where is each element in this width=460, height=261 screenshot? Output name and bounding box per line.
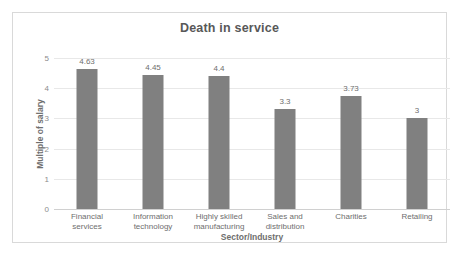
- plot-area: 0123454.634.454.43.33.733: [54, 58, 450, 209]
- x-category-label: Highly skilled manufacturing: [186, 212, 252, 232]
- gridline: 0: [54, 209, 450, 210]
- y-axis-title: Multiple of salary: [33, 58, 47, 209]
- x-category-label: Retailing: [384, 212, 450, 222]
- bar[interactable]: [407, 118, 428, 209]
- x-category-label: Information technology: [120, 212, 186, 232]
- y-tick-label: 1: [45, 174, 49, 183]
- bar-value-label: 4.45: [145, 63, 161, 72]
- y-tick-label: 2: [45, 144, 49, 153]
- bar[interactable]: [209, 76, 230, 209]
- y-tick-label: 0: [45, 205, 49, 214]
- x-category-label: Sales and distribution: [252, 212, 318, 232]
- y-tick-label: 4: [45, 84, 49, 93]
- x-category-label: Charities: [318, 212, 384, 222]
- bar-slot: 4.45: [120, 58, 186, 209]
- bar-slot: 4.63: [54, 58, 120, 209]
- bar-value-label: 3: [415, 106, 419, 115]
- bar-slot: 4.4: [186, 58, 252, 209]
- y-tick-label: 5: [45, 54, 49, 63]
- bar[interactable]: [275, 109, 296, 209]
- chart-title: Death in service: [13, 21, 446, 35]
- bar-value-label: 3.3: [279, 97, 290, 106]
- y-tick-label: 3: [45, 114, 49, 123]
- bar-value-label: 4.4: [213, 64, 224, 73]
- bar[interactable]: [77, 69, 98, 209]
- bar-slot: 3: [384, 58, 450, 209]
- bar-value-label: 4.63: [79, 57, 95, 66]
- bar-value-label: 3.73: [343, 84, 359, 93]
- bar[interactable]: [143, 75, 164, 209]
- bar-slot: 3.3: [252, 58, 318, 209]
- x-axis-title: Sector/Industry: [54, 232, 450, 242]
- chart-frame: Death in service Multiple of salary 0123…: [12, 12, 447, 243]
- bar-slot: 3.73: [318, 58, 384, 209]
- x-category-label: Financial services: [54, 212, 120, 232]
- y-axis-title-label: Multiple of salary: [35, 99, 45, 168]
- bar[interactable]: [341, 96, 362, 209]
